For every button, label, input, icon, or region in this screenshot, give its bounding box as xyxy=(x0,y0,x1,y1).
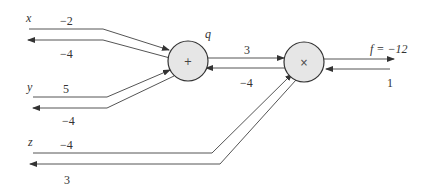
q-gradient-value: −4 xyxy=(240,76,253,90)
q-label: q xyxy=(205,27,211,41)
y-gradient-value: −4 xyxy=(62,114,75,128)
y-label: y xyxy=(26,80,33,94)
y-backward-wire xyxy=(33,76,174,108)
computational-graph: + × x y z q −2 −4 5 −4 −4 3 3 −4 f = −12… xyxy=(0,0,446,192)
z-forward-value: −4 xyxy=(60,138,73,152)
add-operator: + xyxy=(184,56,192,67)
y-forward-wire xyxy=(33,70,170,97)
multiply-operator: × xyxy=(300,57,308,68)
x-gradient-value: −4 xyxy=(60,47,73,61)
z-gradient-value: 3 xyxy=(64,173,70,187)
x-forward-value: −2 xyxy=(60,14,73,28)
z-label: z xyxy=(27,135,33,149)
y-forward-value: 5 xyxy=(63,82,69,96)
x-backward-wire xyxy=(28,40,170,58)
q-forward-value: 3 xyxy=(244,43,250,57)
x-label: x xyxy=(25,11,32,25)
f-forward-value: f = −12 xyxy=(370,42,408,56)
graph-svg: + × x y z q −2 −4 5 −4 −4 3 3 −4 f = −12… xyxy=(0,0,446,192)
f-gradient-value: 1 xyxy=(387,76,393,90)
